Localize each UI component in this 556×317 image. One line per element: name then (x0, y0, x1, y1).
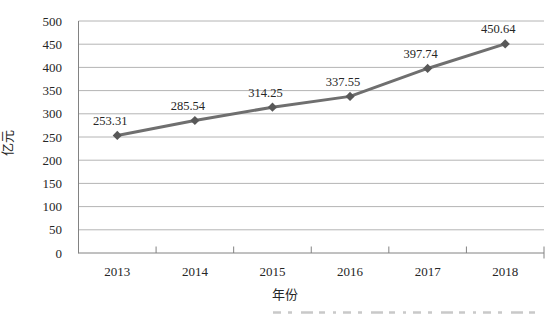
y-axis-tick-labels: 050100150200250300350400450500 (43, 14, 63, 261)
x-tick-label: 2015 (259, 264, 285, 279)
data-point-label: 397.74 (403, 47, 438, 61)
y-tick-label: 400 (43, 60, 63, 75)
chart-figure: 050100150200250300350400450500 201320142… (0, 0, 556, 317)
data-point-marker (345, 92, 354, 101)
data-point-marker (190, 116, 199, 125)
y-tick-label: 50 (49, 222, 62, 237)
y-tick-label: 500 (43, 14, 63, 29)
axes (79, 21, 545, 259)
data-point-label: 253.31 (93, 114, 127, 128)
data-point-marker (423, 64, 432, 73)
data-point-label: 450.64 (481, 22, 516, 36)
x-tick-label: 2014 (182, 264, 209, 279)
x-tick-label: 2016 (337, 264, 364, 279)
x-tick-label: 2018 (492, 264, 518, 279)
data-point-label: 314.25 (248, 86, 282, 100)
y-tick-label: 150 (43, 176, 63, 191)
y-tick-label: 300 (43, 106, 63, 121)
y-tick-label: 350 (43, 83, 63, 98)
data-point-marker (268, 103, 277, 112)
data-point-marker (501, 39, 510, 48)
y-axis-title: 亿元 (0, 130, 15, 156)
data-point-marker (113, 131, 122, 140)
data-point-label: 337.55 (326, 75, 360, 89)
y-tick-label: 200 (43, 153, 63, 168)
y-tick-label: 250 (43, 130, 63, 145)
line-chart: 050100150200250300350400450500 201320142… (0, 0, 556, 317)
data-series (113, 39, 510, 140)
x-tick-label: 2013 (104, 264, 130, 279)
y-tick-label: 100 (43, 199, 63, 214)
y-tick-label: 0 (56, 246, 63, 261)
x-axis-tick-labels: 201320142015201620172018 (104, 264, 518, 279)
data-point-labels: 253.31285.54314.25337.55397.74450.64 (93, 22, 516, 128)
series-line (117, 44, 505, 136)
data-point-label: 285.54 (171, 99, 206, 113)
x-axis-title: 年份 (272, 287, 298, 302)
x-tick-label: 2017 (415, 264, 442, 279)
y-tick-label: 450 (43, 37, 63, 52)
